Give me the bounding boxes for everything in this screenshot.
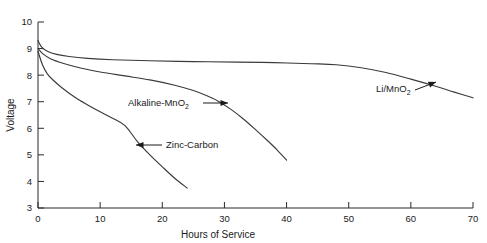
y-axis-title: Voltage xyxy=(5,98,16,132)
annotation-label-li-mno2: Li/MnO2 xyxy=(376,83,411,96)
chart-container: 345678910 010203040506070 Voltage Hours … xyxy=(0,0,487,243)
x-tick-label: 50 xyxy=(343,213,354,224)
y-tick-label: 7 xyxy=(27,96,32,107)
y-axis-tick-labels: 345678910 xyxy=(21,16,32,213)
x-tick-label: 10 xyxy=(95,213,106,224)
voltage-vs-hours-line-chart: 345678910 010203040506070 Voltage Hours … xyxy=(0,0,487,243)
curve-annotations-group: Alkaline-MnO2Zinc-CarbonLi/MnO2 xyxy=(128,82,436,150)
data-curves-group xyxy=(38,41,473,188)
y-tick-label: 5 xyxy=(27,149,32,160)
x-axis-tick-labels: 010203040506070 xyxy=(35,213,478,224)
annotation-arrowhead-li-mno2 xyxy=(428,82,436,88)
x-tick-label: 30 xyxy=(219,213,230,224)
x-tick-label: 20 xyxy=(157,213,168,224)
y-tick-label: 9 xyxy=(27,43,32,54)
annotation-subscript-alkaline-mno2: 2 xyxy=(185,103,189,110)
y-tick-label: 4 xyxy=(27,176,32,187)
annotation-label-alkaline-mno2: Alkaline-MnO2 xyxy=(128,97,189,110)
y-tick-label: 8 xyxy=(27,70,32,81)
y-tick-label: 6 xyxy=(27,123,32,134)
x-tick-label: 40 xyxy=(281,213,292,224)
x-tick-label: 0 xyxy=(35,213,40,224)
x-tick-label: 70 xyxy=(468,213,479,224)
x-axis-title: Hours of Service xyxy=(181,229,255,240)
x-axis-ticks xyxy=(38,202,473,208)
axes-group xyxy=(38,22,473,208)
y-tick-label: 3 xyxy=(27,202,32,213)
annotation-arrowhead-zinc-carbon xyxy=(136,142,144,148)
x-tick-label: 60 xyxy=(406,213,417,224)
annotation-zinc-carbon: Zinc-Carbon xyxy=(136,139,218,150)
y-tick-label: 10 xyxy=(21,16,32,27)
annotation-subscript-li-mno2: 2 xyxy=(407,89,411,96)
series-curve-zinc-carbon xyxy=(38,51,187,188)
annotation-label-zinc-carbon: Zinc-Carbon xyxy=(166,139,218,150)
